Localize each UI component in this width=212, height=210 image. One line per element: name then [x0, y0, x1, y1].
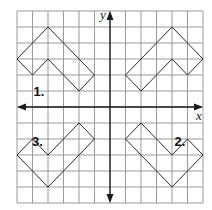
- shape-label-2: 2.: [175, 134, 186, 149]
- y-axis-arrow-down-icon: [107, 194, 114, 203]
- x-axis-label: x: [195, 108, 202, 123]
- axes: x y: [17, 7, 203, 203]
- y-axis-arrow-up-icon: [107, 11, 114, 20]
- y-axis-label: y: [98, 7, 106, 22]
- x-axis-arrow-left-icon: [17, 104, 26, 111]
- coordinate-grid-diagram: x y 1.2.3.: [0, 0, 212, 210]
- shape-label-3: 3.: [32, 134, 43, 149]
- shape-label-1: 1.: [34, 84, 45, 99]
